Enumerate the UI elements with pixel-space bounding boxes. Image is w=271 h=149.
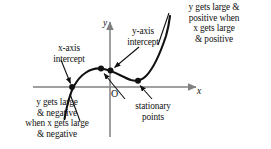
annotation-x-axis-intercept: x-axis intercept xyxy=(38,43,100,64)
x-axis-intercept-dot xyxy=(69,84,75,90)
annotation-top-right: y gets large & positive when x gets larg… xyxy=(160,2,268,44)
x-axis-label: x xyxy=(197,86,201,96)
annotation-bottom-left: y gets large & negative when x gets larg… xyxy=(1,97,113,139)
stationary-point-maximum-dot xyxy=(98,66,104,72)
y-axis-intercept-dot xyxy=(108,68,114,74)
leader-y-axis-intercept xyxy=(115,47,140,68)
annotation-stationary-points: stationary points xyxy=(122,101,184,122)
y-axis-label: y xyxy=(103,18,107,28)
figure-canvas: y x O y gets large & positive when x get… xyxy=(0,0,271,149)
annotation-y-axis-intercept: y-axis intercept xyxy=(116,26,170,47)
stationary-point-minimum-dot xyxy=(135,78,141,84)
